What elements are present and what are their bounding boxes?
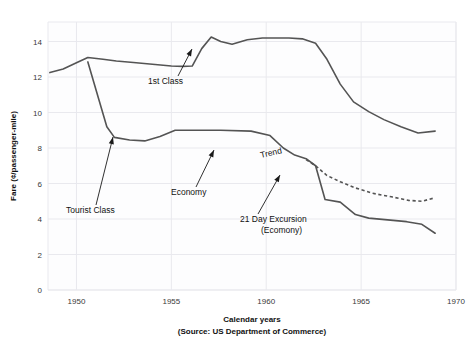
y-tick-label: 12: [33, 73, 42, 82]
annotation-label: Tourist Class: [66, 205, 115, 215]
y-axis-tick-labels: 02468101214: [33, 38, 42, 295]
chart-container: 02468101214 19501955196019651970 1st Cla…: [0, 0, 473, 342]
y-axis-title: Fare (¢/passenger-mile): [9, 111, 18, 201]
annotation-label: 1st Class: [148, 76, 183, 86]
fare-line-chart: 02468101214 19501955196019651970 1st Cla…: [0, 0, 473, 342]
x-axis-title: Calendar years: [223, 315, 281, 324]
y-tick-label: 14: [33, 38, 42, 47]
annotation-label: Economy: [171, 187, 207, 197]
y-tick-label: 8: [38, 144, 43, 153]
x-tick-label: 1950: [68, 297, 86, 306]
x-axis-source-note: (Source: US Department of Commerce): [178, 327, 327, 336]
y-tick-label: 10: [33, 109, 42, 118]
plot-background: [48, 22, 456, 290]
y-tick-label: 2: [38, 251, 43, 260]
x-tick-label: 1960: [257, 297, 275, 306]
x-axis-tick-labels: 19501955196019651970: [68, 297, 466, 306]
annotation-label-line2: (Ecomony): [261, 225, 302, 235]
x-tick-label: 1965: [352, 297, 370, 306]
y-tick-label: 4: [38, 215, 43, 224]
y-tick-label: 0: [38, 286, 43, 295]
x-tick-label: 1970: [447, 297, 465, 306]
y-tick-label: 6: [38, 180, 43, 189]
x-tick-label: 1955: [162, 297, 180, 306]
annotation-label: 21 Day Excursion: [240, 214, 307, 224]
